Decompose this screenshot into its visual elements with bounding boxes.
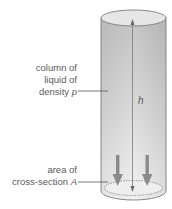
height-label: h — [138, 95, 144, 106]
area-label: area of cross-section A — [12, 164, 77, 188]
density-label-line3: density p — [36, 86, 77, 98]
cylinder — [101, 10, 166, 200]
area-label-line2: cross-section A — [12, 176, 77, 188]
area-symbol: A — [71, 176, 77, 187]
density-symbol: p — [72, 86, 77, 97]
density-label-line2: liquid of — [36, 74, 77, 86]
area-label-line1: area of — [12, 164, 77, 176]
density-label-line1: column of — [36, 62, 77, 74]
density-label: column of liquid of density p — [36, 62, 77, 98]
